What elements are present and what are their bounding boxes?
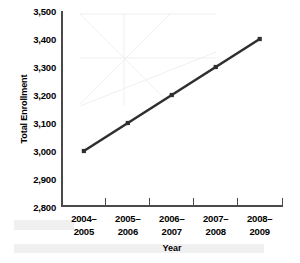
y-tick-label: 3,500: [16, 6, 56, 17]
y-tick-label: 3,100: [16, 118, 56, 129]
x-axis-tick: [193, 198, 194, 207]
x-tick-label-line: 2007–: [193, 213, 239, 226]
y-tick-label: 3,200: [16, 90, 56, 101]
x-tick-label: 2006–2007: [149, 213, 195, 238]
x-tick-label-line: 2006: [105, 226, 151, 239]
x-axis-tick-labels: 2004–20052005–20062006–20072007–20082008…: [61, 213, 283, 241]
data-point-marker: [170, 93, 174, 97]
x-tick-label: 2008–2009: [237, 213, 283, 238]
x-tick-label: 2007–2008: [193, 213, 239, 238]
x-tick-label-line: 2007: [149, 226, 195, 239]
data-point-marker: [214, 65, 218, 69]
enrollment-line-chart: Total Enrollment 2,8002,9003,0003,1003,2…: [0, 0, 300, 263]
x-tick-label-line: 2004–: [61, 213, 107, 226]
plot-area: [61, 11, 283, 207]
x-tick-label-line: 2008–: [237, 213, 283, 226]
y-axis-tick-labels: 2,8002,9003,0003,1003,2003,3003,4003,500: [16, 11, 56, 207]
x-tick-label-line: 2006–: [149, 213, 195, 226]
x-axis-tick: [105, 198, 106, 207]
y-tick-label: 2,800: [16, 202, 56, 213]
x-tick-label: 2004–2005: [61, 213, 107, 238]
x-axis-tick: [149, 198, 150, 207]
data-point-marker: [126, 121, 130, 125]
x-tick-label-line: 2005: [61, 226, 107, 239]
enrollment-series: [61, 11, 283, 207]
x-tick-label-line: 2005–: [105, 213, 151, 226]
data-point-marker: [82, 149, 86, 153]
y-tick-label: 3,400: [16, 34, 56, 45]
x-axis-tick: [61, 198, 62, 207]
x-axis-title: Year: [61, 243, 283, 253]
x-tick-label-line: 2008: [193, 226, 239, 239]
data-point-marker: [258, 37, 262, 41]
y-tick-label: 2,900: [16, 174, 56, 185]
x-axis-tick: [237, 198, 238, 207]
y-tick-label: 3,300: [16, 62, 56, 73]
y-tick-label: 3,000: [16, 146, 56, 157]
x-tick-label: 2005–2006: [105, 213, 151, 238]
x-tick-label-line: 2009: [237, 226, 283, 239]
x-axis-tick: [282, 198, 283, 207]
